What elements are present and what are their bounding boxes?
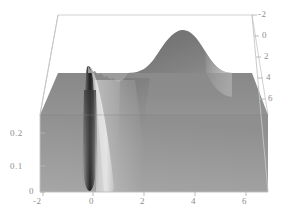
x-tick-label-2: 2 — [140, 196, 145, 206]
y-tick-label-0: 0 — [262, 30, 267, 40]
plot-canvas — [0, 0, 292, 217]
surface-cast-shadow — [82, 90, 98, 188]
x-tick-label-6: 6 — [242, 196, 247, 206]
y-tick-label-2: 2 — [264, 51, 269, 61]
surface-mesh — [40, 30, 268, 192]
surface-plot-figure: 0.2 0.1 0 -2 0 2 4 6 -2 0 2 4 6 — [0, 0, 292, 217]
y-tick-label-4: 4 — [266, 72, 271, 82]
surface-floor — [40, 115, 268, 192]
y-tick-label--2: -2 — [258, 9, 267, 19]
z-tick-label-0: 0 — [29, 186, 34, 196]
x-tick-label-0: 0 — [89, 196, 94, 206]
z-tick-label-0.2: 0.2 — [10, 128, 23, 138]
z-tick-label-0.1: 0.1 — [10, 161, 23, 171]
x-tick-label--2: -2 — [33, 196, 42, 206]
x-tick-label-4: 4 — [191, 196, 196, 206]
y-tick-label-6: 6 — [268, 93, 273, 103]
